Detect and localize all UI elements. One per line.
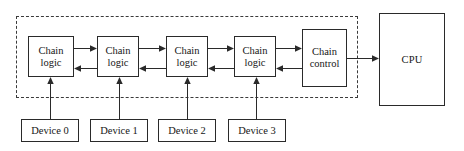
chain-logic-label-1: Chain logic bbox=[105, 45, 130, 69]
device-box-2[interactable]: Device 2 bbox=[158, 119, 216, 142]
cpu-label: CPU bbox=[401, 54, 422, 66]
chain-logic-label-0: Chain logic bbox=[38, 45, 63, 69]
chain-logic-label-2: Chain logic bbox=[174, 45, 199, 69]
device-box-0[interactable]: Device 0 bbox=[21, 119, 79, 142]
chain-logic-label-0-line2: logic bbox=[38, 57, 63, 69]
chain-logic-label-0-line1: Chain bbox=[38, 45, 63, 57]
chain-control-label-line1: Chain bbox=[310, 46, 340, 58]
chain-logic-box-0[interactable]: Chain logic bbox=[28, 36, 74, 77]
chain-logic-label-2-line1: Chain bbox=[174, 45, 199, 57]
chain-logic-box-2[interactable]: Chain logic bbox=[166, 36, 208, 77]
chain-logic-label-1-line2: logic bbox=[105, 57, 130, 69]
chain-logic-box-1[interactable]: Chain logic bbox=[97, 36, 139, 77]
device-box-1[interactable]: Device 1 bbox=[90, 119, 148, 142]
chain-control-label: Chain control bbox=[310, 46, 340, 70]
chain-logic-label-2-line2: logic bbox=[174, 57, 199, 69]
device-label-2: Device 2 bbox=[168, 125, 206, 137]
chain-control-label-line2: control bbox=[310, 58, 340, 70]
device-box-3[interactable]: Device 3 bbox=[228, 119, 286, 142]
cpu-box[interactable]: CPU bbox=[379, 13, 445, 106]
chain-logic-label-1-line1: Chain bbox=[105, 45, 130, 57]
daisy-chain-diagram: Chain logic Chain logic Chain logic Chai… bbox=[0, 0, 464, 151]
chain-control-box[interactable]: Chain control bbox=[302, 29, 347, 87]
chain-logic-box-3[interactable]: Chain logic bbox=[234, 36, 276, 77]
device-label-0: Device 0 bbox=[31, 125, 69, 137]
device-label-3: Device 3 bbox=[238, 125, 276, 137]
chain-logic-label-3-line2: logic bbox=[242, 57, 267, 69]
chain-logic-label-3-line1: Chain bbox=[242, 45, 267, 57]
device-label-1: Device 1 bbox=[100, 125, 138, 137]
chain-logic-label-3: Chain logic bbox=[242, 45, 267, 69]
